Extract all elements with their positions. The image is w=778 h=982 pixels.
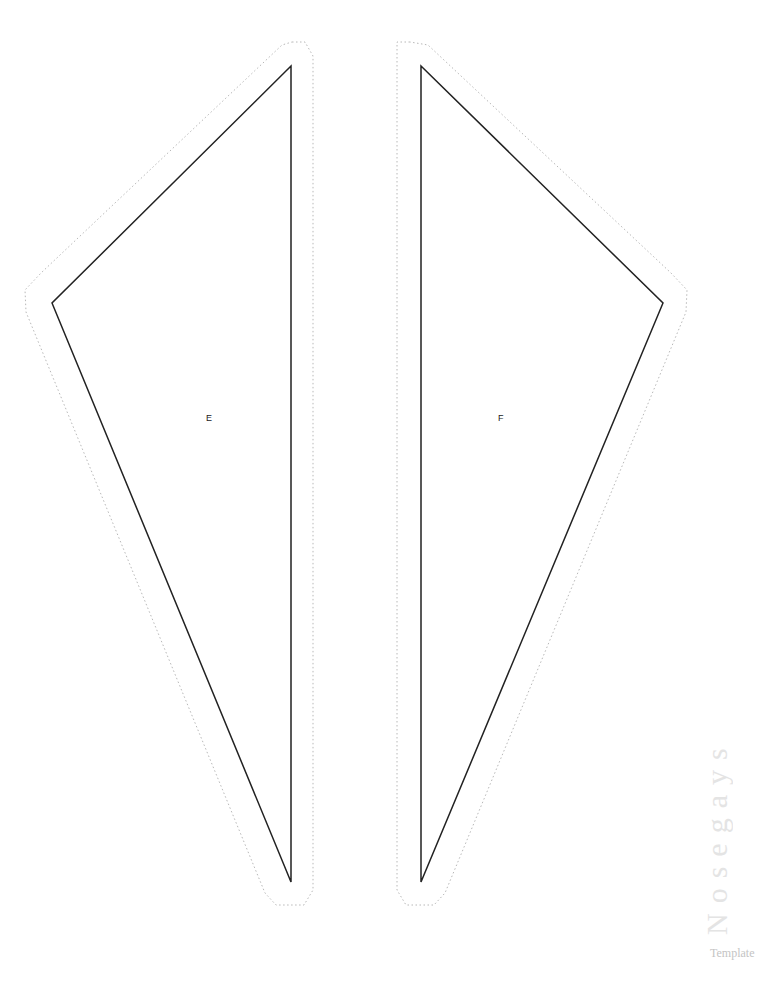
piece-f-label: F: [498, 413, 504, 423]
piece-f-cut-line: [421, 66, 663, 882]
piece-e-label: E: [206, 413, 212, 423]
template-page: E F Nosegays Template: [0, 0, 778, 982]
piece-f-seam-outline: [397, 42, 687, 905]
template-branding: Nosegays: [700, 655, 740, 955]
template-title: Nosegays: [700, 655, 736, 935]
pattern-pieces: [0, 0, 778, 982]
piece-e-cut-line: [52, 66, 291, 882]
template-subtitle: Template: [710, 946, 754, 961]
piece-e-seam-outline: [25, 42, 313, 905]
